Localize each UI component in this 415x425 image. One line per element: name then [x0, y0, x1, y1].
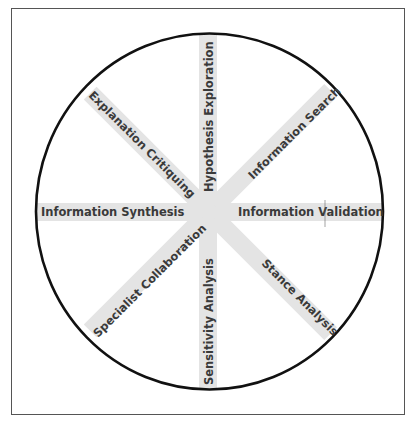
label-information-validation: Information Validation: [238, 205, 384, 219]
label-explanation-critiquing: Explanation Critiquing: [86, 88, 198, 200]
label-information-search: Information Search: [245, 84, 343, 182]
label-specialist-collaboration: Specialist Collaboration: [90, 221, 209, 340]
label-hypothesis-exploration: Hypothesis Exploration: [202, 41, 216, 192]
label-sensitivity-analysis: Sensitivity Analysis: [202, 258, 216, 385]
label-stance-analysis: Stance Analysis: [259, 256, 341, 338]
label-information-synthesis: Information Synthesis: [41, 205, 185, 219]
radial-diagram: Hypothesis Exploration Information Searc…: [0, 0, 415, 425]
